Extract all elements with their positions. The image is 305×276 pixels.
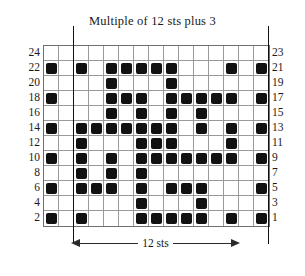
stitch-cell-empty bbox=[119, 106, 134, 121]
stitch-cell-empty bbox=[89, 136, 104, 151]
stitch-cell-empty bbox=[179, 136, 194, 151]
row-number: 9 bbox=[272, 150, 298, 165]
stitch-cell-empty bbox=[179, 166, 194, 181]
stitch-cell-filled bbox=[119, 121, 134, 136]
stitch-cell-empty bbox=[59, 196, 74, 211]
row-number: 4 bbox=[14, 195, 40, 210]
stitch-cell-empty bbox=[89, 91, 104, 106]
stitch-cell-filled bbox=[104, 61, 119, 76]
stitch-cell-empty bbox=[59, 76, 74, 91]
stitch-cell-filled bbox=[164, 76, 179, 91]
stitch-cell-filled bbox=[194, 121, 209, 136]
row-number: 17 bbox=[272, 90, 298, 105]
stitch-cell-filled bbox=[104, 106, 119, 121]
stitch-cell-empty bbox=[239, 121, 254, 136]
stitch-cell-empty bbox=[89, 166, 104, 181]
stitch-cell-filled bbox=[164, 151, 179, 166]
row-number: 11 bbox=[272, 135, 298, 150]
stitch-cell-filled bbox=[74, 151, 89, 166]
stitch-cell-empty bbox=[119, 196, 134, 211]
stitch-cell-empty bbox=[254, 136, 269, 151]
stitch-cell-empty bbox=[164, 46, 179, 61]
stitch-cell-empty bbox=[179, 46, 194, 61]
row-number: 24 bbox=[14, 45, 40, 60]
stitch-cell-empty bbox=[104, 196, 119, 211]
stitch-cell-empty bbox=[89, 211, 104, 226]
stitch-cell-empty bbox=[164, 196, 179, 211]
stitch-cell-filled bbox=[254, 211, 269, 226]
stitch-cell-filled bbox=[149, 136, 164, 151]
stitch-cell-filled bbox=[164, 91, 179, 106]
stitch-cell-empty bbox=[239, 91, 254, 106]
stitch-cell-empty bbox=[59, 106, 74, 121]
row-number: 21 bbox=[272, 60, 298, 75]
stitch-cell-empty bbox=[59, 181, 74, 196]
stitch-cell-filled bbox=[44, 91, 59, 106]
stitch-cell-empty bbox=[239, 196, 254, 211]
stitch-cell-filled bbox=[194, 211, 209, 226]
stitch-cell-filled bbox=[164, 61, 179, 76]
stitch-cell-empty bbox=[254, 106, 269, 121]
stitch-cell-filled bbox=[44, 151, 59, 166]
stitch-cell-empty bbox=[254, 196, 269, 211]
stitch-cell-empty bbox=[149, 181, 164, 196]
stitch-cell-filled bbox=[194, 106, 209, 121]
stitch-cell-empty bbox=[239, 46, 254, 61]
stitch-cell-empty bbox=[104, 136, 119, 151]
stitch-cell-filled bbox=[74, 181, 89, 196]
stitch-cell-empty bbox=[209, 196, 224, 211]
stitch-cell-filled bbox=[224, 61, 239, 76]
stitch-cell-empty bbox=[209, 46, 224, 61]
stitch-cell-filled bbox=[194, 181, 209, 196]
stitch-cell-empty bbox=[134, 46, 149, 61]
stitch-cell-filled bbox=[89, 121, 104, 136]
repeat-label-wrap: 12 sts bbox=[43, 233, 268, 254]
stitch-cell-filled bbox=[194, 91, 209, 106]
stitch-cell-empty bbox=[239, 211, 254, 226]
stitch-cell-empty bbox=[74, 106, 89, 121]
row-number: 2 bbox=[14, 210, 40, 225]
stitch-cell-filled bbox=[44, 211, 59, 226]
stitch-cell-filled bbox=[134, 136, 149, 151]
row-number: 14 bbox=[14, 120, 40, 135]
stitch-cell-filled bbox=[104, 121, 119, 136]
stitch-cell-empty bbox=[89, 106, 104, 121]
stitch-cell-empty bbox=[119, 136, 134, 151]
stitch-cell-empty bbox=[44, 166, 59, 181]
stitch-cell-filled bbox=[194, 196, 209, 211]
stitch-cell-empty bbox=[179, 61, 194, 76]
stitch-cell-filled bbox=[149, 211, 164, 226]
stitch-cell-empty bbox=[59, 166, 74, 181]
stitch-cell-empty bbox=[224, 166, 239, 181]
stitch-cell-filled bbox=[134, 151, 149, 166]
row-number: 15 bbox=[272, 105, 298, 120]
row-number: 16 bbox=[14, 105, 40, 120]
stitch-cell-empty bbox=[194, 136, 209, 151]
stitch-cell-empty bbox=[119, 151, 134, 166]
row-number: 7 bbox=[272, 165, 298, 180]
repeat-marker-left bbox=[73, 26, 74, 244]
stitch-cell-empty bbox=[59, 211, 74, 226]
row-number: 23 bbox=[272, 45, 298, 60]
stitch-cell-empty bbox=[104, 46, 119, 61]
stitch-cell-empty bbox=[59, 151, 74, 166]
stitch-cell-empty bbox=[44, 76, 59, 91]
stitch-cell-filled bbox=[44, 181, 59, 196]
stitch-cell-filled bbox=[194, 151, 209, 166]
stitch-cell-empty bbox=[239, 61, 254, 76]
stitch-cell-filled bbox=[104, 166, 119, 181]
stitch-cell-filled bbox=[164, 136, 179, 151]
stitch-cell-empty bbox=[89, 196, 104, 211]
stitch-cell-empty bbox=[104, 211, 119, 226]
row-number: 22 bbox=[14, 60, 40, 75]
stitch-cell-empty bbox=[179, 121, 194, 136]
repeat-label: 12 sts bbox=[138, 237, 173, 249]
stitch-cell-filled bbox=[179, 181, 194, 196]
stitch-cell-empty bbox=[254, 76, 269, 91]
stitch-cell-filled bbox=[134, 106, 149, 121]
stitch-cell-filled bbox=[254, 91, 269, 106]
stitch-cell-empty bbox=[44, 46, 59, 61]
stitch-cell-empty bbox=[119, 46, 134, 61]
stitch-cell-filled bbox=[134, 61, 149, 76]
stitch-cell-empty bbox=[209, 136, 224, 151]
